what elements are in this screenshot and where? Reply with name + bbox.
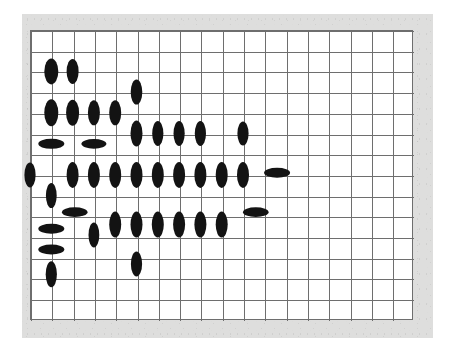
plot-panel: [30, 30, 413, 320]
figure-canvas: [0, 0, 455, 353]
grid-lines: [31, 31, 414, 321]
